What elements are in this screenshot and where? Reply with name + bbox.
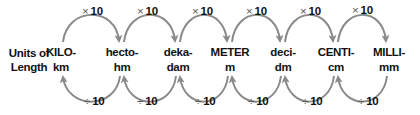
multiply-arrow	[124, 15, 175, 42]
divide-label: ÷10	[84, 95, 105, 107]
divide-label: ÷10	[302, 95, 323, 107]
divide-icon: ÷	[195, 95, 201, 107]
unit-dekameter: deka- dam	[153, 45, 203, 75]
multiply-icon: ×	[137, 5, 144, 17]
unit-prefix: deka-	[153, 45, 203, 60]
unit-kilometer: KILO- km	[36, 45, 86, 75]
unit-prefix: deci-	[258, 45, 308, 60]
unit-prefix: hecto-	[97, 45, 147, 60]
divide-label: ÷10	[195, 95, 216, 107]
multiply-arrow	[180, 15, 227, 42]
divide-icon: ÷	[137, 95, 143, 107]
multiply-icon: ×	[192, 5, 199, 17]
divide-label: ÷10	[137, 95, 158, 107]
multiply-icon: ×	[352, 4, 359, 16]
multiply-icon: ×	[82, 5, 89, 17]
unit-prefix: MILLI-	[364, 45, 414, 60]
multiply-label: ×10	[82, 5, 103, 17]
divide-label: ÷10	[248, 95, 269, 107]
unit-prefix: METER	[205, 45, 255, 60]
unit-hectometer: hecto- hm	[97, 45, 147, 75]
unit-meter: METER m	[205, 45, 255, 75]
divide-icon: ÷	[248, 95, 254, 107]
unit-symbol: mm	[364, 60, 414, 75]
unit-millimeter: MILLI- mm	[364, 45, 414, 75]
unit-symbol: dm	[258, 60, 308, 75]
unit-prefix: CENTI-	[311, 45, 361, 60]
multiply-arrow	[232, 15, 280, 42]
multiply-label: ×10	[246, 5, 267, 17]
unit-prefix: KILO-	[36, 45, 86, 60]
multiply-label: ×10	[300, 5, 321, 17]
multiply-icon: ×	[246, 5, 253, 17]
divide-icon: ÷	[302, 95, 308, 107]
unit-symbol: m	[205, 60, 255, 75]
multiply-arrow	[63, 15, 119, 42]
unit-symbol: hm	[97, 60, 147, 75]
unit-symbol: km	[36, 60, 86, 75]
multiply-label: ×10	[137, 5, 158, 17]
unit-symbol: dam	[153, 60, 203, 75]
unit-symbol: cm	[311, 60, 361, 75]
unit-centimeter: CENTI- cm	[311, 45, 361, 75]
divide-label: ÷10	[358, 95, 379, 107]
multiply-arrow	[285, 15, 333, 42]
divide-icon: ÷	[358, 95, 364, 107]
divide-icon: ÷	[84, 95, 90, 107]
multiply-arrow	[338, 15, 386, 42]
metric-length-diagram: Units of Length KILO- km hecto- hm deka-…	[0, 0, 420, 115]
multiply-icon: ×	[300, 5, 307, 17]
multiply-label: ×10	[352, 4, 373, 16]
multiply-label: ×10	[192, 5, 213, 17]
unit-decimeter: deci- dm	[258, 45, 308, 75]
